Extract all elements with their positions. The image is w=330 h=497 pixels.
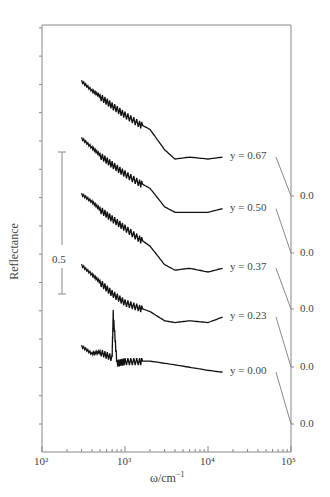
reflectance-chart [0,0,330,497]
series-curve [82,80,223,159]
series-curve [82,137,223,212]
x-tick-label: 10⁴ [200,455,215,467]
x-axis-label: ω/cm−1 [150,470,184,486]
right-axis-zero-label: 0.0 [300,189,314,201]
series-label: y = 0.23 [230,309,266,321]
right-axis-zero-label: 0.0 [300,417,314,429]
series-label: y = 0.67 [230,149,266,161]
right-axis-zero-label: 0.0 [300,360,314,372]
scale-bar-label: 0.5 [52,253,66,265]
series-label: y = 0.37 [230,260,266,272]
series-label: y = 0.00 [230,364,266,376]
plot-frame [39,25,294,452]
y-axis-label: Reflectance [7,223,22,280]
x-tick-label: 10³ [117,455,131,467]
x-tick-label: 10⁵ [281,455,296,467]
series-curve [82,310,223,372]
plot-curves [82,80,223,372]
x-tick-label: 10² [34,455,48,467]
series-label: y = 0.50 [230,201,266,213]
right-axis-zero-label: 0.0 [300,246,314,258]
series-curve [82,193,223,272]
right-axis-zero-label: 0.0 [300,302,314,314]
series-curve [82,264,223,323]
